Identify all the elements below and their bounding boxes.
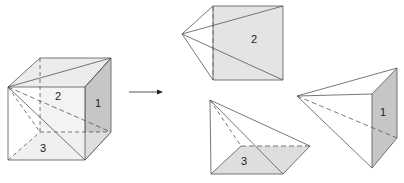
cube [8,58,111,160]
cube-label-2: 2 [55,90,61,102]
pyramid-1-label: 1 [380,106,386,118]
cube-label-1: 1 [95,97,101,109]
pyramid-3 [210,100,310,174]
pyramid-2 [182,6,283,80]
pyramid-3-label: 3 [241,155,247,167]
pyramid-2-label: 2 [251,33,257,45]
pyramid-1 [297,68,397,168]
arrow-icon [129,90,163,95]
cube-dissection-diagram: 2 1 3 2 3 1 [0,0,404,183]
cube-label-3: 3 [40,142,46,154]
